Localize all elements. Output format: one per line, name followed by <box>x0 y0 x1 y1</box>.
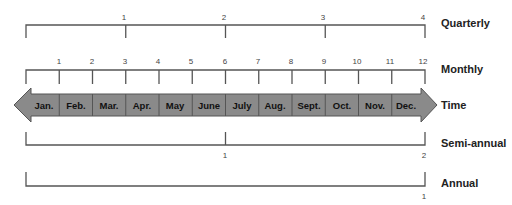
month-1-label: 1 <box>57 57 62 66</box>
month-nov: Nov. <box>365 100 385 111</box>
month-10-label: 10 <box>353 57 362 66</box>
month-6-label: 6 <box>223 57 228 66</box>
month-11-label: 11 <box>386 57 395 66</box>
quarterly-label: Quarterly <box>441 17 491 29</box>
month-may: May <box>166 100 185 111</box>
month-4-label: 4 <box>156 57 161 66</box>
month-sept: Sept. <box>297 100 320 111</box>
month-7-label: 7 <box>256 57 261 66</box>
quarterly-tick-labels: 1 2 3 4 <box>122 13 426 22</box>
month-5-label: 5 <box>189 57 194 66</box>
month-feb: Feb. <box>66 100 86 111</box>
month-apr: Apr. <box>133 100 151 111</box>
quarter-1-label: 1 <box>122 13 127 22</box>
monthly-bracket <box>26 70 425 84</box>
month-oct: Oct. <box>333 100 351 111</box>
monthly-tick-labels: 1 2 3 4 5 6 7 8 9 10 11 12 <box>57 57 428 66</box>
month-3-label: 3 <box>123 57 128 66</box>
quarter-3-label: 3 <box>321 13 326 22</box>
semi-annual-bracket <box>26 132 425 145</box>
month-8-label: 8 <box>289 57 294 66</box>
month-aug: Aug. <box>264 100 285 111</box>
month-jan: Jan. <box>34 100 53 111</box>
half-2-label: 2 <box>422 151 427 160</box>
month-dec: Dec. <box>396 100 416 111</box>
timeline-diagram: 1 2 3 4 Quarterly 1 2 3 4 5 6 7 8 9 10 1… <box>0 0 512 205</box>
annual-label: Annual <box>441 177 478 189</box>
time-label: Time <box>441 99 466 111</box>
year-1-label: 1 <box>422 192 427 201</box>
month-12-label: 12 <box>419 57 428 66</box>
half-1-label: 1 <box>223 151 228 160</box>
time-arrow: Jan. Feb. Mar. Apr. May June July Aug. S… <box>14 88 437 122</box>
quarter-2-label: 2 <box>222 13 227 22</box>
month-july: July <box>232 100 252 111</box>
month-june: June <box>198 100 220 111</box>
semi-annual-label: Semi-annual <box>441 137 506 149</box>
month-mar: Mar. <box>99 100 118 111</box>
annual-bracket <box>26 172 425 186</box>
quarterly-bracket <box>26 25 425 38</box>
month-2-label: 2 <box>90 57 95 66</box>
quarter-4-label: 4 <box>421 13 426 22</box>
monthly-label: Monthly <box>441 63 484 75</box>
month-9-label: 9 <box>322 57 327 66</box>
